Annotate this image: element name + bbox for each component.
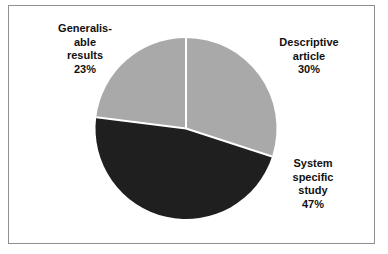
pie-label-system-specific-study: System specific study 47% xyxy=(252,157,374,211)
pie-chart-figure: Generalis- able results 23% Descriptive … xyxy=(0,0,388,254)
pie-label-generalisable-results: Generalis- able results 23% xyxy=(24,22,146,76)
pie-label-descriptive-article: Descriptive article 30% xyxy=(248,36,370,77)
